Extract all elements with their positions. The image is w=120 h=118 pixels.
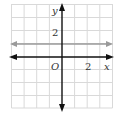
origin-label: O (51, 61, 59, 72)
arrow-right-icon (106, 41, 113, 47)
y-axis-label: y (51, 5, 58, 16)
x-tick-label: 2 (85, 61, 91, 72)
arrow-left-icon (9, 54, 17, 60)
x-axis-label: x (104, 61, 110, 72)
coordinate-plane: y 2 O 2 x (0, 0, 120, 118)
y-tick-label: 2 (52, 27, 58, 38)
